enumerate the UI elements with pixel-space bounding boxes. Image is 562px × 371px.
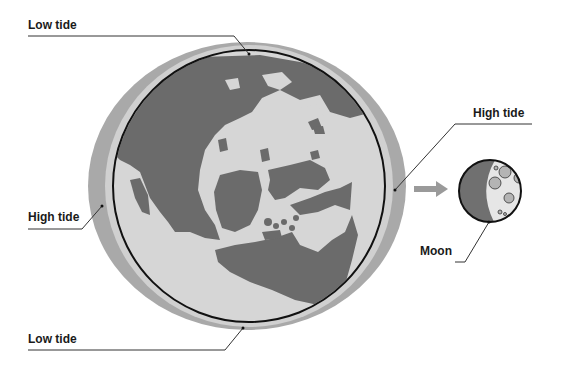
leader-moon <box>455 222 489 262</box>
tides-diagram: Low tide High tide High tide Low tide Mo… <box>0 0 562 371</box>
moon <box>459 160 524 222</box>
arrow-right-icon <box>414 181 448 197</box>
diagram-canvas <box>0 0 562 371</box>
earth <box>110 50 385 322</box>
label-low-tide-top: Low tide <box>28 18 77 32</box>
label-high-tide-right: High tide <box>473 106 524 120</box>
label-high-tide-left: High tide <box>28 210 79 224</box>
label-moon: Moon <box>420 244 452 258</box>
label-low-tide-bottom: Low tide <box>28 332 77 346</box>
